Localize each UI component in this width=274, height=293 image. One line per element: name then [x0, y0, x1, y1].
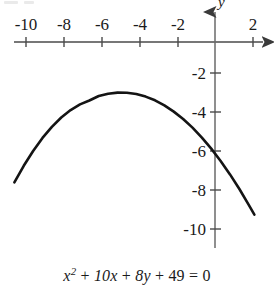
parabola-curve: [14, 93, 254, 215]
parabola-figure: -10 -8 -6 -4 -2 2 -2 -4 -6 -8 -10 y x2 +…: [0, 0, 274, 293]
x-tick-label--4: -4: [133, 16, 147, 33]
equation-term-0: 0: [202, 267, 210, 284]
equation-term-x-squared: x2: [63, 267, 76, 284]
coordinate-plane: [0, 0, 274, 293]
x-tick-label--6: -6: [95, 16, 109, 33]
y-tick-label--4: -4: [167, 104, 206, 121]
equation-equals: =: [189, 267, 198, 284]
equation-plus-1: +: [80, 267, 89, 284]
y-tick-label--8: -8: [167, 182, 206, 199]
equation-term-8y: 8y: [135, 267, 151, 284]
x-tick-label--10: -10: [15, 16, 38, 33]
equation-plus-3: +: [155, 267, 164, 284]
x-tick-label-2: 2: [249, 16, 258, 33]
equation-term-49: 49: [168, 267, 184, 284]
y-axis-name-label: y: [218, 0, 225, 10]
equation-caption: x2 + 10x + 8y + 49 = 0: [0, 265, 274, 285]
y-tick-label--2: -2: [167, 65, 206, 82]
y-tick-label--6: -6: [167, 143, 206, 160]
equation-term-10x: 10x: [94, 267, 118, 284]
equation-plus-2: +: [122, 267, 131, 284]
x-tick-label--8: -8: [57, 16, 71, 33]
x-tick-label--2: -2: [171, 16, 185, 33]
y-tick-label--10: -10: [157, 221, 206, 238]
